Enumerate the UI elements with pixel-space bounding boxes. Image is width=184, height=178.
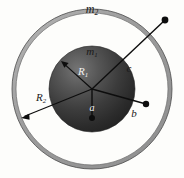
label-m2: m2 <box>86 3 98 17</box>
label-R1-base: R <box>78 65 85 77</box>
label-R1-subscript: 1 <box>85 71 88 78</box>
label-m1-subscript: 1 <box>94 51 97 58</box>
label-c-base: c <box>127 62 132 74</box>
label-R1: R1 <box>78 66 88 79</box>
label-m1-base: m <box>86 45 94 57</box>
label-b: b <box>131 108 137 119</box>
label-b-base: b <box>131 107 137 119</box>
label-m1: m1 <box>86 46 97 59</box>
label-a-base: a <box>90 102 95 113</box>
label-m2-base: m <box>86 2 95 16</box>
label-m2-subscript: 2 <box>94 8 98 17</box>
label-a: a <box>90 103 95 113</box>
label-R2-base: R <box>36 91 43 103</box>
label-R2-subscript: 2 <box>43 97 46 104</box>
physics-figure: m2 m1 R1 R2 a b c <box>0 0 184 178</box>
label-R2: R2 <box>36 92 46 105</box>
figure-canvas <box>0 0 184 178</box>
label-c: c <box>127 63 132 74</box>
